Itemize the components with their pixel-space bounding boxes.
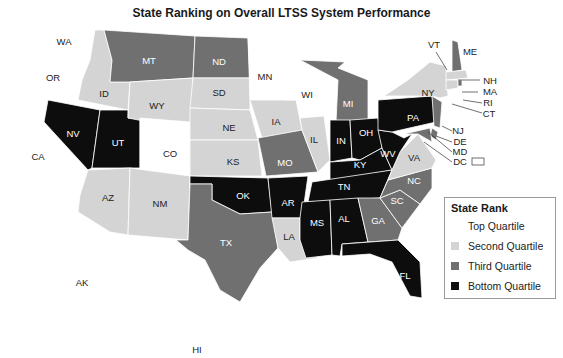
label-GA: GA: [371, 215, 385, 226]
label-ME: ME: [463, 46, 477, 57]
label-DC: DC: [453, 156, 467, 167]
legend-item-top: Top Quartile: [451, 216, 549, 236]
label-ID: ID: [99, 88, 109, 99]
us-choropleth-map: WA OR CA ID NV UT AZ NM MT WY CO ND SD N…: [0, 0, 563, 358]
state-DC[interactable]: [472, 158, 484, 165]
state-ME[interactable]: [458, 20, 490, 64]
label-NM: NM: [153, 198, 168, 209]
label-MN: MN: [258, 71, 273, 82]
label-RI: RI: [483, 97, 493, 108]
label-TN: TN: [338, 181, 351, 192]
label-LA: LA: [283, 231, 295, 242]
label-IA: IA: [272, 116, 282, 127]
state-MS[interactable]: [300, 200, 332, 258]
label-MO: MO: [277, 157, 292, 168]
label-KS: KS: [227, 156, 240, 167]
legend: State Rank Top Quartile Second Quartile …: [444, 197, 556, 299]
state-CT[interactable]: [446, 80, 458, 90]
leader-CT: [452, 104, 482, 113]
label-PA: PA: [407, 112, 420, 123]
label-MT: MT: [142, 55, 156, 66]
label-KY: KY: [354, 159, 367, 170]
label-NC: NC: [407, 175, 421, 186]
label-HI: HI: [192, 344, 202, 355]
state-RI[interactable]: [458, 80, 462, 86]
label-CA: CA: [31, 151, 45, 162]
label-AR: AR: [281, 197, 294, 208]
label-WV: WV: [380, 148, 396, 159]
legend-label-second: Second Quartile: [468, 240, 543, 252]
label-NE: NE: [222, 122, 235, 133]
legend-item-third: Third Quartile: [451, 256, 549, 276]
label-MS: MS: [310, 217, 324, 228]
label-OH: OH: [359, 127, 373, 138]
label-NJ: NJ: [452, 125, 464, 136]
leader-NJ: [442, 126, 452, 131]
label-MA: MA: [483, 86, 498, 97]
label-AZ: AZ: [102, 192, 114, 203]
label-NV: NV: [66, 128, 80, 139]
label-SC: SC: [390, 195, 403, 206]
swatch-third-quartile: [451, 262, 459, 270]
label-IL: IL: [310, 134, 318, 145]
legend-item-second: Second Quartile: [451, 236, 549, 256]
swatch-top-quartile: [451, 222, 459, 230]
leader-RI: [463, 100, 482, 103]
label-IN: IN: [336, 135, 346, 146]
state-MA[interactable]: [446, 70, 468, 80]
label-WA: WA: [57, 36, 73, 47]
swatch-second-quartile: [451, 242, 459, 250]
label-WY: WY: [149, 100, 165, 111]
label-VT: VT: [428, 39, 440, 50]
state-NY[interactable]: [384, 62, 448, 98]
label-NY: NY: [421, 87, 435, 98]
state-NJ[interactable]: [432, 96, 442, 128]
label-CT: CT: [483, 108, 496, 119]
label-CO: CO: [163, 148, 177, 159]
label-SD: SD: [212, 87, 225, 98]
label-OK: OK: [236, 190, 250, 201]
label-MI: MI: [343, 98, 354, 109]
label-OR: OR: [46, 72, 60, 83]
label-ND: ND: [212, 56, 226, 67]
label-AL: AL: [338, 213, 350, 224]
legend-label-bottom: Bottom Quartile: [468, 280, 541, 292]
legend-title: State Rank: [451, 202, 549, 214]
legend-item-bottom: Bottom Quartile: [451, 276, 549, 296]
label-TX: TX: [220, 237, 233, 248]
legend-label-third: Third Quartile: [468, 260, 532, 272]
swatch-bottom-quartile: [451, 282, 459, 290]
label-VA: VA: [408, 152, 421, 163]
legend-label-top: Top Quartile: [468, 220, 525, 232]
label-NH: NH: [483, 75, 497, 86]
label-AK: AK: [76, 277, 89, 288]
label-FL: FL: [399, 270, 410, 281]
label-UT: UT: [112, 137, 125, 148]
label-WI: WI: [301, 89, 313, 100]
